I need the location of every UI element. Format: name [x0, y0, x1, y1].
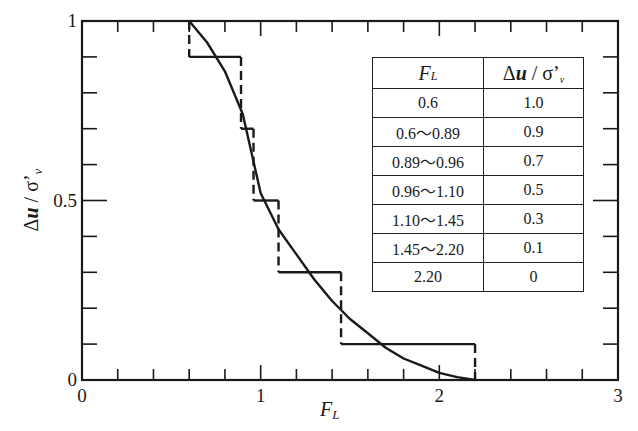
- legend-row: 2.200: [373, 263, 584, 292]
- legend-header-fl: FL: [373, 58, 484, 89]
- legend-row: 0.61.0: [373, 89, 584, 118]
- legend-cell-du: 1.0: [484, 89, 584, 118]
- legend-cell-du: 0.1: [484, 234, 584, 263]
- legend-cell-fl: 1.10～1.45: [373, 205, 484, 234]
- legend-row: 1.45～2.200.1: [373, 234, 584, 263]
- legend-cell-fl: 1.45～2.20: [373, 234, 484, 263]
- legend-table: FL Δu / σ’v 0.61.00.6～0.890.90.89～0.960.…: [372, 57, 584, 292]
- x-tick-label: 3: [613, 385, 623, 406]
- legend-row: 0.96～1.100.5: [373, 176, 584, 205]
- x-tick-label: 1: [256, 385, 266, 406]
- legend-row: 0.89～0.960.7: [373, 147, 584, 176]
- x-axis-title: FL: [319, 398, 339, 422]
- y-tick-label: 0.5: [53, 190, 77, 211]
- x-tick-label: 2: [435, 385, 445, 406]
- y-tick-label: 0: [68, 369, 78, 390]
- legend-body: 0.61.00.6～0.890.90.89～0.960.70.96～1.100.…: [373, 89, 584, 292]
- legend-cell-fl: 0.6: [373, 89, 484, 118]
- x-tick-label: 0: [77, 385, 87, 406]
- legend-cell-du: 0.3: [484, 205, 584, 234]
- legend-cell-fl: 0.89～0.96: [373, 147, 484, 176]
- legend-cell-fl: 2.20: [373, 263, 484, 292]
- y-tick-label: 1: [68, 10, 78, 31]
- legend-header-row: FL Δu / σ’v: [373, 58, 584, 89]
- legend-cell-fl: 0.6～0.89: [373, 118, 484, 147]
- legend-cell-du: 0.7: [484, 147, 584, 176]
- legend-row: 1.10～1.450.3: [373, 205, 584, 234]
- legend-header-du: Δu / σ’v: [484, 58, 584, 89]
- legend-cell-du: 0.5: [484, 176, 584, 205]
- legend-cell-du: 0: [484, 263, 584, 292]
- y-axis-title: Δu / σ’v: [20, 168, 45, 231]
- legend-row: 0.6～0.890.9: [373, 118, 584, 147]
- legend-cell-fl: 0.96～1.10: [373, 176, 484, 205]
- legend-cell-du: 0.9: [484, 118, 584, 147]
